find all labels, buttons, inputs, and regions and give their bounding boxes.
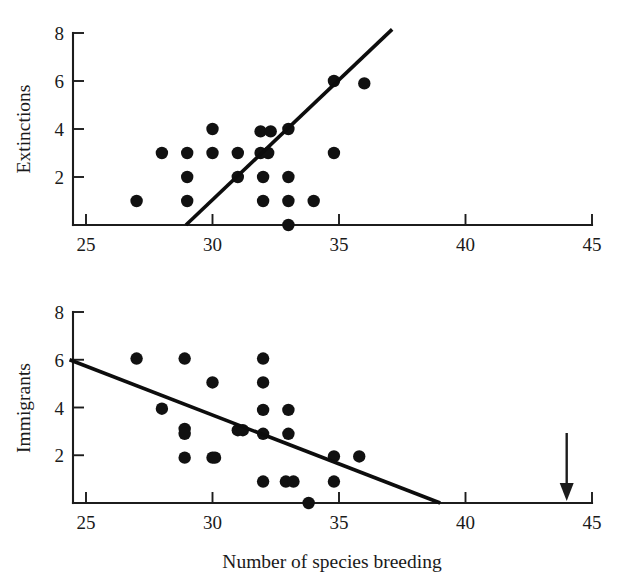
y-tick-label: 6 [55, 71, 65, 92]
y-tick-label: 6 [55, 350, 65, 371]
data-point [353, 450, 365, 462]
data-point [178, 428, 190, 440]
data-point [178, 451, 190, 463]
x-tick-label: 30 [203, 512, 222, 533]
x-axis-ticklabels-extinctions: 2530354045 [77, 234, 602, 255]
data-point [206, 123, 218, 135]
x-axis-immigrants: 2530354045 [73, 492, 602, 533]
x-axis-ticks-extinctions [73, 214, 592, 225]
x-tick-label: 25 [77, 234, 96, 255]
data-point [282, 171, 294, 183]
data-point [308, 195, 320, 207]
data-point [282, 195, 294, 207]
data-point [232, 147, 244, 159]
y-tick-label: 2 [55, 167, 65, 188]
data-point [206, 376, 218, 388]
y-tick-label: 8 [55, 23, 65, 44]
regression-line-immigrants [70, 360, 441, 503]
data-point [358, 77, 370, 89]
y-axis-title-extinctions: Extinctions [13, 85, 34, 174]
downward-arrow-icon [560, 433, 574, 501]
data-point [282, 219, 294, 231]
x-tick-label: 40 [456, 234, 475, 255]
y-axis-extinctions: 2468 [55, 23, 85, 225]
x-tick-label: 25 [77, 512, 96, 533]
data-point [282, 428, 294, 440]
data-points-extinctions [130, 75, 370, 231]
x-tick-label: 30 [203, 234, 222, 255]
data-point [156, 147, 168, 159]
y-tick-label: 8 [55, 302, 65, 323]
x-tick-label: 45 [583, 512, 602, 533]
chart-panel-immigrants: 2468 2530354045 Immigrants Number of spe… [0, 290, 627, 581]
data-point [257, 195, 269, 207]
data-point [206, 147, 218, 159]
y-axis-ticklabels-extinctions: 2468 [55, 23, 65, 188]
figure-container: 2468 2530354045 Extinctions 2468 2530354… [0, 0, 627, 581]
data-point [181, 147, 193, 159]
data-point [264, 125, 276, 137]
y-axis-ticklabels-immigrants: 2468 [55, 302, 65, 466]
data-point [257, 352, 269, 364]
data-point [130, 195, 142, 207]
x-tick-label: 40 [456, 512, 475, 533]
data-point [257, 376, 269, 388]
x-tick-label: 45 [583, 234, 602, 255]
data-point [156, 402, 168, 414]
x-axis-ticklabels-immigrants: 2530354045 [77, 512, 602, 533]
data-point [181, 171, 193, 183]
data-point [257, 475, 269, 487]
x-axis-ticks-immigrants [73, 492, 592, 503]
fit-line [70, 360, 441, 503]
chart-panel-extinctions: 2468 2530354045 Extinctions [0, 0, 627, 290]
x-tick-label: 35 [330, 234, 349, 255]
x-axis-extinctions: 2530354045 [73, 214, 602, 255]
y-tick-label: 4 [55, 398, 65, 419]
data-point [178, 352, 190, 364]
x-axis-title: Number of species breeding [222, 551, 442, 572]
y-tick-label: 4 [55, 119, 65, 140]
data-point [328, 475, 340, 487]
y-axis-immigrants: 2468 [55, 302, 85, 503]
y-axis-title-immigrants: Immigrants [13, 363, 34, 453]
data-point [282, 404, 294, 416]
data-point [328, 147, 340, 159]
data-point [287, 475, 299, 487]
y-tick-label: 2 [55, 445, 65, 466]
y-axis-ticks-immigrants [73, 312, 84, 455]
data-point [257, 404, 269, 416]
data-point [181, 195, 193, 207]
data-point [209, 451, 221, 463]
data-point [130, 352, 142, 364]
x-tick-label: 35 [330, 512, 349, 533]
data-point [257, 171, 269, 183]
data-point [302, 497, 314, 509]
y-axis-ticks-extinctions [73, 33, 84, 177]
data-points-immigrants [130, 352, 365, 509]
arrow-head [560, 483, 574, 501]
